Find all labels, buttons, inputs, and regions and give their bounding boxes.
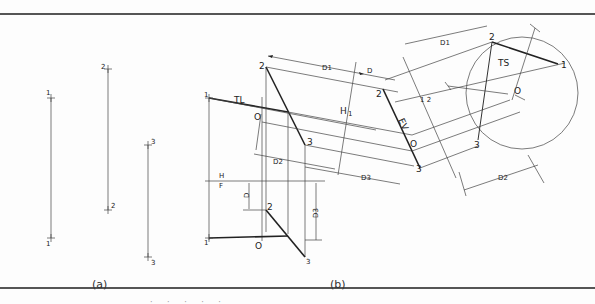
b-point-2-top-label: 2: [259, 61, 265, 71]
ts-d1-dim-label: D1: [440, 39, 450, 47]
ts-d2-dim-label: D2: [498, 174, 508, 182]
a-point-2-top-label: 2: [101, 63, 105, 71]
a-point-1-bottom-label: 1: [46, 240, 50, 248]
caption-a: (a): [92, 278, 107, 291]
h1-label: H: [340, 106, 347, 116]
d2-dim-label: D2: [273, 158, 283, 166]
a-point-3-bottom-label: 3: [151, 259, 155, 267]
d1-dim-label: D1: [322, 64, 332, 72]
b-point-o-bottom-label: O: [255, 241, 262, 251]
panel-b: TL 1 2 3 O D1 D D2: [204, 24, 578, 291]
caption-b: (b): [330, 278, 346, 291]
a-point-2-bottom-label: 2: [111, 202, 115, 210]
d3-dim-label: D3: [361, 174, 371, 182]
a-point-1-top-label: 1: [46, 89, 50, 97]
d-aux-dim-label: D: [367, 67, 372, 75]
aux-point-2-label: 2: [376, 89, 382, 99]
technical-drawing: 1 1 2 2 3 3 (a) TL: [0, 0, 595, 304]
b-point-3-bottom-label: 3: [306, 258, 310, 266]
b-point-2-bottom-label: 2: [267, 202, 273, 212]
ts-label: TS: [497, 58, 509, 68]
aux-point-o-label: O: [410, 139, 417, 149]
b-point-1-bottom-label: 1: [204, 239, 208, 247]
a-point-3-top-label: 3: [151, 138, 155, 146]
ts-point-1-label: 1: [561, 60, 567, 70]
ref-line-1-2-label: 1 2: [420, 96, 431, 104]
footer-partial-text: · · · · ·: [150, 296, 227, 304]
f-label: F: [219, 182, 223, 190]
panel-a: 1 1 2 2 3 3 (a): [46, 63, 155, 291]
b-point-1-top-label: 1: [204, 91, 208, 99]
h1-sub-label: 1: [348, 110, 352, 118]
d3-vertical-dim-label: D3: [312, 208, 320, 218]
ts-point-3-label: 3: [474, 140, 480, 150]
h-label: H: [219, 172, 224, 180]
d-dim-label: D: [243, 193, 251, 198]
figure-page: 1 1 2 2 3 3 (a) TL: [0, 0, 595, 304]
ev-label: EV: [396, 117, 410, 133]
aux-point-3-label: 3: [416, 164, 422, 174]
ts-point-2-label: 2: [489, 32, 495, 42]
